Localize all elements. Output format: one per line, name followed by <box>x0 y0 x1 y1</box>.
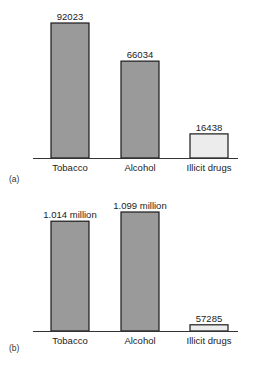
category-label-illicit-drugs-a: Illicit drugs <box>187 162 232 173</box>
category-label-alcohol-b: Alcohol <box>124 335 155 346</box>
bar-tobacco-a <box>51 23 89 158</box>
chart-panel-a: (a) 92023Tobacco66034Alcohol16438Illicit… <box>9 11 238 184</box>
panel-label-a: (a) <box>9 174 20 184</box>
value-label-alcohol-a: 66034 <box>127 49 153 60</box>
category-label-tobacco-a: Tobacco <box>52 162 87 173</box>
bar-alcohol-b <box>121 212 159 331</box>
bar-illicit-drugs-b <box>190 325 228 331</box>
chart-panel-b: (b) 1.014 millionTobacco1.099 millionAlc… <box>9 200 238 353</box>
value-label-tobacco-a: 92023 <box>57 11 83 22</box>
category-label-alcohol-a: Alcohol <box>124 162 155 173</box>
value-label-illicit-drugs-a: 16438 <box>196 122 222 133</box>
value-label-tobacco-b: 1.014 million <box>43 209 96 220</box>
bar-tobacco-b <box>51 221 89 331</box>
panel-label-b: (b) <box>9 343 20 353</box>
bar-illicit-drugs-a <box>190 134 228 158</box>
bar-alcohol-a <box>121 61 159 158</box>
bar-charts: (a) 92023Tobacco66034Alcohol16438Illicit… <box>0 0 258 368</box>
value-label-illicit-drugs-b: 57285 <box>196 313 222 324</box>
category-label-illicit-drugs-b: Illicit drugs <box>187 335 232 346</box>
category-label-tobacco-b: Tobacco <box>52 335 87 346</box>
value-label-alcohol-b: 1.099 million <box>113 200 166 211</box>
